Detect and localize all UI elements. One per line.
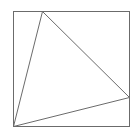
inscribed-triangle [14,12,130,127]
diagram-canvas [0,0,139,138]
outer-square [14,12,130,127]
